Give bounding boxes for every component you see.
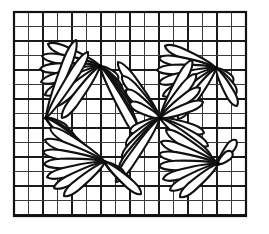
convergence-node <box>216 162 220 166</box>
convergence-node <box>103 160 107 164</box>
convergence-node <box>214 66 218 70</box>
figure-root <box>0 0 269 234</box>
convergence-node <box>98 64 102 68</box>
convergence-node <box>44 116 48 120</box>
petal-fan-figure <box>0 0 269 234</box>
convergence-node <box>158 116 162 120</box>
